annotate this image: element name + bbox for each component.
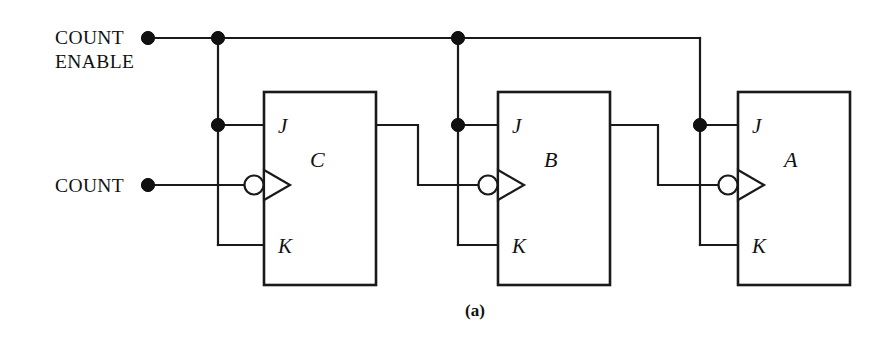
junction-dot-ff-b-j <box>451 118 464 131</box>
ff-c-output-net <box>376 125 492 185</box>
signal-labels-group: COUNT ENABLE COUNT <box>55 27 134 196</box>
ff-b-output-to-ff-a-clock-wire <box>610 125 732 185</box>
ff-a-name-label: A <box>782 147 798 172</box>
count-enable-net <box>148 38 700 245</box>
figure-caption: (a) <box>465 301 485 320</box>
count-enable-label-line2: ENABLE <box>55 51 134 72</box>
count-enable-label-line1: COUNT <box>55 27 124 48</box>
ff-c-output-to-ff-b-clock-wire <box>376 125 492 185</box>
ff-c-name-label: C <box>310 147 325 172</box>
junction-dot-enable-b <box>451 31 464 44</box>
flipflop-c[interactable]: J K C <box>245 92 377 285</box>
ff-b-name-label: B <box>544 147 557 172</box>
ff-c-k-label: K <box>277 234 293 258</box>
junction-dots-group <box>141 31 706 191</box>
circuit-diagram-figure: J K C J K B J K A <box>0 0 888 339</box>
count-terminal-dot <box>141 178 154 191</box>
ff-a-k-label: K <box>751 234 767 258</box>
count-label: COUNT <box>55 175 124 196</box>
flipflop-a[interactable]: J K A <box>719 92 851 285</box>
junction-dot-enable-c <box>211 31 224 44</box>
ff-b-clock-inversion-bubble-icon <box>479 176 498 195</box>
ff-a-clock-inversion-bubble-icon <box>719 176 738 195</box>
ff-c-clock-inversion-bubble-icon <box>245 176 264 195</box>
ff-b-k-label: K <box>511 234 527 258</box>
count-enable-terminal-dot <box>141 31 154 44</box>
junction-dot-ff-c-j <box>211 118 224 131</box>
flipflop-b[interactable]: J K B <box>479 92 611 285</box>
circuit-schematic-canvas: J K C J K B J K A <box>0 0 888 339</box>
junction-dot-ff-a-j <box>693 118 706 131</box>
ff-b-output-net <box>610 125 732 185</box>
